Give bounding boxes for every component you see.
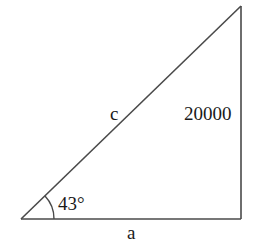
label-opposite-side: 20000 bbox=[184, 103, 232, 124]
label-adjacent-side: a bbox=[127, 222, 136, 243]
triangle-diagram: c 20000 a 43° bbox=[0, 0, 259, 244]
label-hypotenuse: c bbox=[110, 103, 118, 124]
label-angle: 43° bbox=[58, 193, 85, 214]
